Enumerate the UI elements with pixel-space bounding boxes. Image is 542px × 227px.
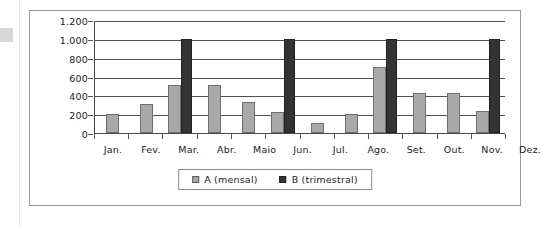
legend-label: A (mensal)	[204, 174, 257, 185]
bar-series-a	[271, 112, 284, 133]
x-tick-mark	[402, 134, 403, 139]
plot-wrapper: 1.2001.0008006004002000	[50, 21, 505, 139]
x-tick-mark	[505, 134, 506, 139]
y-tick-label: 800	[69, 53, 88, 64]
x-tick-mark	[437, 134, 438, 139]
y-tick-mark	[88, 21, 93, 22]
bar-series-a	[447, 93, 460, 133]
legend-entry: A (mensal)	[192, 174, 257, 185]
x-axis-label: Dez.	[511, 144, 542, 155]
bar-group	[266, 21, 300, 133]
x-axis-label: Fev.	[132, 144, 170, 155]
x-tick-mark	[231, 134, 232, 139]
x-axis-label: Jul.	[322, 144, 360, 155]
bar-group	[334, 21, 368, 133]
x-tick-mark	[94, 134, 95, 139]
chart-legend: A (mensal)B (trimestral)	[178, 169, 372, 190]
y-tick-mark	[88, 134, 93, 135]
x-axis-label: Jan.	[94, 144, 132, 155]
bar-group	[471, 21, 505, 133]
bar-series-b	[181, 39, 192, 133]
bar-group	[300, 21, 334, 133]
bar-series-b	[489, 39, 500, 133]
page-margin-rule	[19, 0, 20, 227]
x-axis-label: Maio	[246, 144, 284, 155]
bar-group	[129, 21, 163, 133]
bar-series-a	[373, 67, 386, 133]
x-tick-mark	[128, 134, 129, 139]
scan-artifact	[0, 28, 13, 42]
chart-frame: 1.2001.0008006004002000 Jan.Fev.Mar.Abr.…	[29, 10, 521, 206]
bar-series-a	[168, 85, 181, 133]
legend-swatch-icon	[192, 176, 199, 183]
bar-group	[163, 21, 197, 133]
y-tick-mark	[88, 40, 93, 41]
x-tick-mark	[368, 134, 369, 139]
bar-series-b	[284, 39, 295, 133]
x-tick-mark	[471, 134, 472, 139]
x-axis-label: Set.	[397, 144, 435, 155]
y-tick-label: 400	[69, 91, 88, 102]
x-tick-mark	[197, 134, 198, 139]
y-axis: 1.2001.0008006004002000	[50, 21, 94, 139]
bar-series-a	[106, 114, 119, 133]
x-axis-label: Out.	[435, 144, 473, 155]
bar-series-a	[345, 114, 358, 133]
y-tick-label: 1.200	[60, 16, 88, 27]
plot-area	[94, 21, 505, 134]
bar-series-a	[476, 111, 489, 133]
y-tick-mark	[88, 115, 93, 116]
x-axis-label: Ago.	[359, 144, 397, 155]
bar-series-a	[140, 104, 153, 133]
x-axis-label: Mar.	[170, 144, 208, 155]
y-tick-mark	[88, 59, 93, 60]
legend-entry: B (trimestral)	[280, 174, 358, 185]
bar-group	[95, 21, 129, 133]
bar-group	[198, 21, 232, 133]
x-axis-labels: Jan.Fev.Mar.Abr.MaioJun.Jul.Ago.Set.Out.…	[94, 144, 542, 155]
y-tick-label: 600	[69, 72, 88, 83]
x-axis-label: Abr.	[208, 144, 246, 155]
bar-group	[403, 21, 437, 133]
x-tick-mark	[162, 134, 163, 139]
x-tick-mark	[265, 134, 266, 139]
legend-label: B (trimestral)	[292, 174, 358, 185]
y-tick-mark	[88, 78, 93, 79]
bars-layer	[95, 21, 505, 133]
y-tick-label: 200	[69, 110, 88, 121]
bar-group	[232, 21, 266, 133]
x-tick-mark	[334, 134, 335, 139]
bar-series-a	[208, 85, 221, 133]
x-axis-ticks	[94, 134, 505, 139]
bar-series-b	[386, 39, 397, 133]
bar-series-a	[242, 102, 255, 133]
legend-swatch-icon	[280, 176, 287, 183]
y-tick-label: 1.000	[60, 34, 88, 45]
x-axis-label: Jun.	[284, 144, 322, 155]
bar-series-a	[311, 123, 324, 133]
bar-group	[368, 21, 402, 133]
bar-group	[437, 21, 471, 133]
x-axis-label: Nov.	[473, 144, 511, 155]
bar-series-a	[413, 93, 426, 133]
x-tick-mark	[300, 134, 301, 139]
y-tick-mark	[88, 96, 93, 97]
